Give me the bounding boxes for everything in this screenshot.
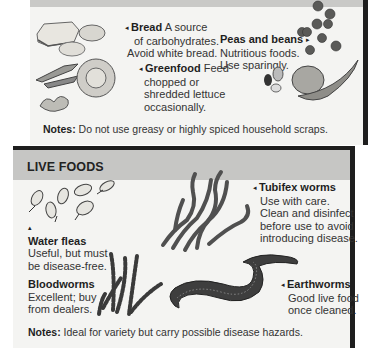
household-notes: Notes: Do not use greasy or highly spice… xyxy=(43,123,328,135)
arrow-left-icon: ◂ xyxy=(253,184,257,191)
bloodworms-label: Bloodworms Excellent; buy from dealers. xyxy=(28,278,96,316)
beans-illustration xyxy=(258,60,363,105)
peas-illustration xyxy=(312,0,362,56)
live-foods-title: LIVE FOODS xyxy=(27,160,104,174)
bread-label: ◂Bread A source of carbohydrates. Avoid … xyxy=(125,21,219,60)
arrow-right-icon: ▸ xyxy=(306,36,310,43)
arrow-up-icon: ▴ xyxy=(28,224,32,231)
water-fleas-illustration xyxy=(25,184,120,224)
greenfood-label: ◂Greenfood Feed chopped or shredded lett… xyxy=(139,62,229,113)
arrow-left-icon: ◂ xyxy=(125,24,129,31)
tubifex-illustration xyxy=(153,170,263,260)
arrow-left-icon: ◂ xyxy=(281,281,285,288)
live-foods-notes: Notes: Ideal for variety but carry possi… xyxy=(28,326,303,338)
live-foods-panel: LIVE FOODS ◂Tubifex worms Use with care.… xyxy=(13,146,355,348)
earthworms-label: ◂Earthworms Good live food once cleaned. xyxy=(281,278,359,317)
bloodworms-illustration xyxy=(91,250,166,320)
arrow-left-icon: ◂ xyxy=(139,65,143,72)
bread-illustration xyxy=(34,16,114,56)
greenfood-illustration xyxy=(34,58,114,113)
household-foods-panel: ◂Bread A source of carbohydrates. Avoid … xyxy=(30,0,368,145)
tubifex-worms-label: ◂Tubifex worms Use with care. Clean and … xyxy=(253,181,358,245)
